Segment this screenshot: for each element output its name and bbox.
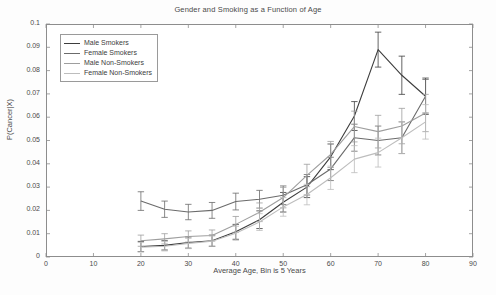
- y-tick-label: 0.09: [6, 42, 40, 49]
- legend-label: Male Smokers: [84, 38, 129, 48]
- legend-item-female-non-smokers[interactable]: Female Non-Smokers: [64, 68, 152, 78]
- figure-container: Gender and Smoking as a Function of Age …: [0, 0, 496, 295]
- legend-line-icon: [64, 73, 80, 74]
- legend-item-female-smokers[interactable]: Female Smokers: [64, 48, 152, 58]
- series-female-non-smokers: [138, 105, 429, 252]
- y-tick-label: 0.01: [6, 229, 40, 236]
- y-tick-label: 0.03: [6, 182, 40, 189]
- legend-line-icon: [64, 43, 80, 44]
- y-tick-label: 0: [6, 252, 40, 259]
- series-male-non-smokers: [138, 94, 429, 246]
- y-tick-label: 0.1: [6, 19, 40, 26]
- x-axis-label: Average Age, Bin is 5 Years: [46, 266, 473, 275]
- legend-item-male-smokers[interactable]: Male Smokers: [64, 38, 152, 48]
- legend-item-male-non-smokers[interactable]: Male Non-Smokers: [64, 58, 152, 68]
- legend-label: Male Non-Smokers: [84, 58, 144, 68]
- legend-label: Female Smokers: [84, 48, 137, 58]
- y-axis-label: P(Cancer|X): [5, 80, 14, 160]
- chart-legend: Male SmokersFemale SmokersMale Non-Smoke…: [60, 34, 158, 82]
- y-tick-label: 0.04: [6, 159, 40, 166]
- legend-line-icon: [64, 63, 80, 64]
- y-tick-label: 0.08: [6, 66, 40, 73]
- legend-line-icon: [64, 53, 80, 54]
- series-male-smokers: [138, 32, 429, 251]
- y-tick-label: 0.02: [6, 205, 40, 212]
- legend-label: Female Non-Smokers: [84, 68, 152, 78]
